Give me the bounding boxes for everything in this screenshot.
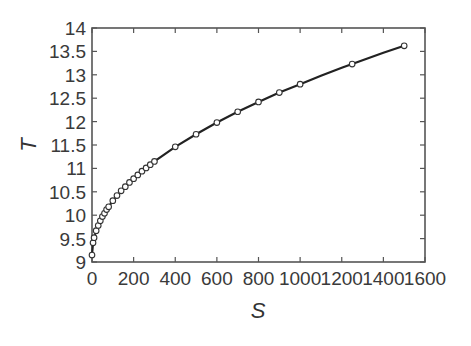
data-point xyxy=(89,252,95,258)
y-tick-label: 10.5 xyxy=(49,182,86,203)
axes-box xyxy=(92,28,425,262)
x-tick-label: 1000 xyxy=(279,268,321,289)
y-tick-label: 14 xyxy=(65,18,87,39)
x-tick-label: 1400 xyxy=(362,268,404,289)
data-point xyxy=(152,159,158,165)
y-ticks: 99.51010.51111.51212.51313.514 xyxy=(49,18,425,273)
x-tick-label: 800 xyxy=(243,268,275,289)
data-point xyxy=(235,109,241,115)
axes-frame xyxy=(92,28,425,262)
data-point xyxy=(106,204,112,210)
data-point xyxy=(214,120,220,126)
data-point xyxy=(277,90,283,96)
x-tick-label: 600 xyxy=(201,268,233,289)
fit-curve xyxy=(92,46,404,255)
x-tick-label: 200 xyxy=(118,268,150,289)
data-point xyxy=(349,61,355,67)
y-tick-label: 12.5 xyxy=(49,88,86,109)
y-tick-label: 12 xyxy=(65,112,86,133)
data-point xyxy=(114,193,120,199)
data-point xyxy=(172,144,178,150)
x-axis-label: S xyxy=(251,298,266,323)
plot-area xyxy=(89,43,407,258)
y-tick-label: 9.5 xyxy=(60,229,86,250)
data-point xyxy=(297,81,303,87)
x-tick-label: 1200 xyxy=(321,268,363,289)
data-point xyxy=(91,235,97,241)
data-point xyxy=(193,131,199,137)
y-tick-label: 9 xyxy=(75,252,86,273)
data-point xyxy=(401,43,407,49)
y-tick-label: 13 xyxy=(65,65,86,86)
y-tick-label: 11 xyxy=(66,158,86,179)
y-tick-label: 10 xyxy=(65,205,86,226)
y-axis-label: T xyxy=(16,137,41,152)
chart: 02004006008001000120014001600 99.51010.5… xyxy=(0,0,471,346)
x-tick-label: 400 xyxy=(159,268,191,289)
x-ticks: 02004006008001000120014001600 xyxy=(87,28,446,289)
data-point xyxy=(256,99,262,105)
data-point xyxy=(110,198,116,204)
y-tick-label: 13.5 xyxy=(49,41,86,62)
y-tick-label: 11.5 xyxy=(50,135,86,156)
x-tick-label: 1600 xyxy=(404,268,446,289)
x-tick-label: 0 xyxy=(87,268,98,289)
